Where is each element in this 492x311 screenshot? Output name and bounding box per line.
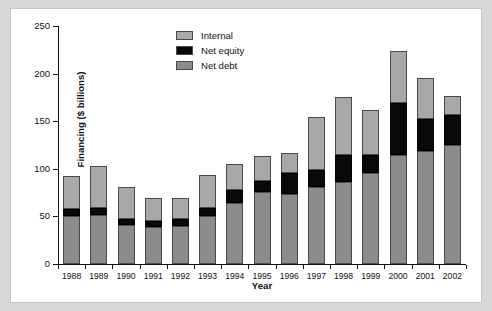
x-axis-tick [58,265,59,269]
bar-segment-net-debt [444,145,461,264]
bar-segment-internal [118,187,135,219]
y-axis-tick-label: 200 [34,69,50,78]
legend-item: Net debt [176,58,296,73]
bar-segment-internal [172,198,189,219]
bar-segment-net-equity [390,103,407,155]
y-axis-tick-label: 0 [45,259,50,268]
y-tick-label-container: 050100150200250 [16,26,50,264]
bar-segment-net-equity [118,219,135,225]
y-axis-tick-label: 250 [34,21,50,30]
x-axis-tick [221,265,222,269]
bar-segment-net-equity [444,115,461,145]
bar-segment-internal [254,156,271,181]
bar-segment-net-equity [308,170,325,187]
x-axis-tick [248,265,249,269]
bar-segment-net-debt [308,187,325,264]
bar-segment-net-debt [145,227,162,264]
bar-segment-net-debt [63,216,80,264]
stacked-bar [308,26,325,264]
bar-segment-net-debt [335,182,352,264]
bar-segment-net-debt [362,173,379,264]
legend-swatch-icon [176,61,193,70]
legend-swatch-icon [176,46,193,55]
bar-segment-internal [145,198,162,221]
bar-segment-internal [444,96,461,115]
chart-figure: 050100150200250 198819891990199119921993… [10,8,482,303]
bar-segment-net-equity [63,209,80,217]
bar-segment-internal [308,117,325,169]
x-axis-tick [357,265,358,269]
legend-item-label: Internal [201,30,233,41]
y-axis-tick [53,74,59,75]
x-axis-tick [303,265,304,269]
y-axis-tick-label: 100 [34,164,50,173]
stacked-bar [335,26,352,264]
x-axis-tick [412,265,413,269]
bar-segment-net-debt [417,151,434,264]
y-axis-tick [53,121,59,122]
x-axis-tick [330,265,331,269]
bar-segment-net-equity [281,173,298,194]
stacked-bar [417,26,434,264]
bar-segment-internal [90,166,107,208]
chart-legend: InternalNet equityNet debt [176,28,296,73]
stacked-bar [390,26,407,264]
stacked-bar [118,26,135,264]
y-axis-tick [53,26,59,27]
bar-segment-net-equity [335,155,352,183]
x-axis-title: Year [58,280,466,291]
x-axis-tick [194,265,195,269]
bar-segment-internal [417,78,434,119]
bar-segment-net-debt [172,226,189,264]
y-axis-tick-label: 50 [39,211,50,220]
bar-segment-internal [362,110,379,155]
y-axis-tick [53,216,59,217]
y-axis-title: Financing ($ billions) [75,40,86,200]
bar-segment-net-equity [145,221,162,227]
bar-segment-net-equity [362,155,379,173]
bar-segment-net-debt [90,215,107,265]
legend-item: Internal [176,28,296,43]
x-axis-tick [85,265,86,269]
bar-segment-net-debt [281,194,298,264]
bar-segment-net-debt [118,225,135,264]
bar-segment-internal [199,175,216,207]
bar-segment-net-equity [172,219,189,226]
bar-segment-internal [281,153,298,173]
legend-item: Net equity [176,43,296,58]
x-axis-tick [439,265,440,269]
bar-segment-net-equity [90,208,107,215]
y-axis-tick [53,169,59,170]
x-axis-line [58,264,466,265]
x-axis-tick [140,265,141,269]
legend-item-label: Net equity [201,45,244,56]
stacked-bar [90,26,107,264]
x-axis-tick [384,265,385,269]
legend-item-label: Net debt [201,60,237,71]
y-axis-line [58,26,59,265]
bar-segment-net-debt [226,203,243,264]
bar-segment-net-equity [199,208,216,217]
bar-segment-net-debt [390,155,407,264]
legend-swatch-icon [176,31,193,40]
stacked-bar [145,26,162,264]
bar-segment-net-debt [199,216,216,264]
bar-segment-internal [390,51,407,103]
x-axis-tick [276,265,277,269]
x-axis-tick [112,265,113,269]
bar-segment-internal [335,97,352,154]
bar-segment-net-equity [417,119,434,150]
x-axis-tick [167,265,168,269]
screenshot-page: 050100150200250 198819891990199119921993… [0,0,492,311]
bar-segment-internal [226,164,243,190]
stacked-bar [362,26,379,264]
stacked-bar [444,26,461,264]
y-axis-tick-label: 150 [34,116,50,125]
bar-segment-net-equity [226,190,243,203]
x-axis-tick [466,265,467,269]
bar-segment-net-equity [254,181,271,191]
bar-segment-net-debt [254,192,271,264]
